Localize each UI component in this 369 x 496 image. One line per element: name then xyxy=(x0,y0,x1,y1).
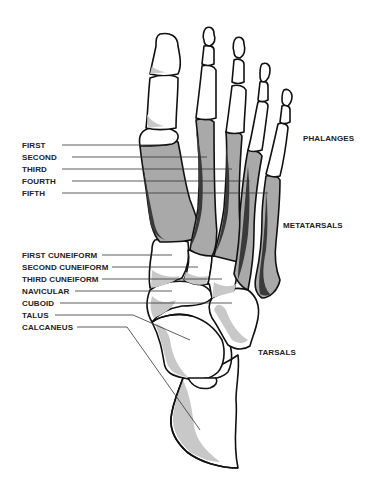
fifth-metatarsal-bone xyxy=(255,175,280,298)
third-toe-phalanges xyxy=(226,37,246,133)
label-second-cuneiform: SECOND CUNEIFORM xyxy=(22,263,109,272)
foot-bones-diagram: FIRST SECOND THIRD FOURTH FIFTH FIRST CU… xyxy=(0,0,369,496)
first-metatarsal-bone xyxy=(139,127,200,242)
label-first-cuneiform: FIRST CUNEIFORM xyxy=(22,251,97,260)
fourth-toe-phalanges xyxy=(248,63,270,151)
label-third-cuneiform: THIRD CUNEIFORM xyxy=(22,275,99,284)
label-calcaneus: CALCANEUS xyxy=(22,323,73,332)
label-third-metatarsal: THIRD xyxy=(22,165,47,174)
label-navicular: NAVICULAR xyxy=(22,287,69,296)
fifth-toe-phalanges xyxy=(266,89,292,176)
label-fourth-metatarsal: FOURTH xyxy=(22,177,56,186)
group-label-tarsals: TARSALS xyxy=(258,348,296,357)
label-fifth-metatarsal: FIFTH xyxy=(22,189,45,198)
group-label-metatarsals: METATARSALS xyxy=(283,221,343,230)
group-label-phalanges: PHALANGES xyxy=(303,134,354,143)
foot-skeleton-illustration xyxy=(0,0,369,496)
label-first-metatarsal: FIRST xyxy=(22,141,46,150)
second-metatarsal-bone xyxy=(190,119,217,256)
label-talus: TALUS xyxy=(22,311,49,320)
third-metatarsal-bone xyxy=(214,131,242,262)
second-toe-phalanges xyxy=(196,27,216,119)
label-cuboid: CUBOID xyxy=(22,299,54,308)
label-second-metatarsal: SECOND xyxy=(22,153,57,162)
big-toe-phalanges xyxy=(146,34,180,130)
third-cuneiform-bone xyxy=(208,256,238,298)
